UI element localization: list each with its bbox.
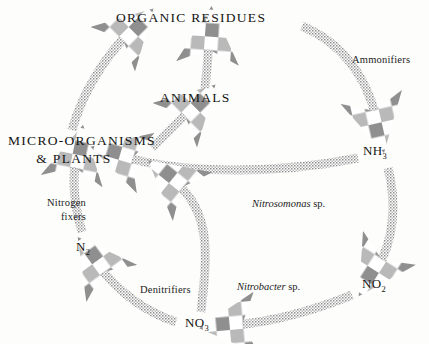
label-nitrogen-fixers: Nitrogen fixers bbox=[14, 196, 86, 223]
n2-subscript: 2 bbox=[86, 247, 90, 257]
no3-subscript: 3 bbox=[205, 323, 209, 333]
node-micro-organisms-plants: MICRO-ORGANISMS & PLANTS bbox=[8, 132, 140, 168]
no2-subscript: 2 bbox=[382, 284, 386, 294]
nitrobacter-sp: sp. bbox=[288, 281, 300, 292]
n2-formula: N bbox=[76, 239, 86, 254]
no3-formula: NO bbox=[185, 315, 205, 330]
nh3-subscript: 3 bbox=[383, 151, 387, 161]
nitrosomonas-sp: sp. bbox=[313, 198, 325, 209]
arrow-nh3-to-no2 bbox=[378, 168, 393, 266]
arrow-micro-organisms-to-animals bbox=[152, 110, 190, 148]
arrow-micro-organisms-to-residues bbox=[72, 34, 128, 130]
nitrosomonas-genus: Nitrosomonas bbox=[252, 198, 311, 209]
arrow-residues-to-nh3 bbox=[302, 26, 376, 118]
micro-organisms-line-2: & PLANTS bbox=[8, 150, 140, 168]
node-organic-residues: ORGANIC RESIDUES bbox=[116, 10, 266, 26]
node-n2: N2 bbox=[76, 240, 90, 257]
node-no2: NO2 bbox=[362, 277, 386, 294]
arrow-animals-to-residues bbox=[205, 42, 209, 88]
label-nitrobacter: Nitrobacter sp. bbox=[237, 281, 300, 293]
nh3-formula: NH bbox=[363, 143, 383, 158]
node-no3: NO3 bbox=[185, 316, 209, 333]
arrow-nh3-to-micro-organisms bbox=[125, 157, 358, 170]
label-nitrosomonas: Nitrosomonas sp. bbox=[252, 198, 325, 210]
node-animals: ANIMALS bbox=[160, 90, 231, 106]
label-denitrifiers: Denitrifiers bbox=[140, 284, 191, 296]
nitrogen-cycle-diagram: ORGANIC RESIDUES ANIMALS MICRO-ORGANISMS… bbox=[0, 0, 429, 344]
arrow-no2-to-no3 bbox=[235, 295, 352, 325]
nitrogen-fixers-line-1: Nitrogen bbox=[14, 196, 86, 210]
micro-organisms-line-1: MICRO-ORGANISMS bbox=[8, 132, 140, 150]
label-ammonifiers: Ammonifiers bbox=[352, 54, 410, 66]
nitrogen-fixers-line-2: fixers bbox=[14, 210, 86, 224]
no2-formula: NO bbox=[362, 276, 382, 291]
nitrobacter-genus: Nitrobacter bbox=[237, 281, 286, 292]
node-nh3: NH3 bbox=[363, 144, 387, 161]
